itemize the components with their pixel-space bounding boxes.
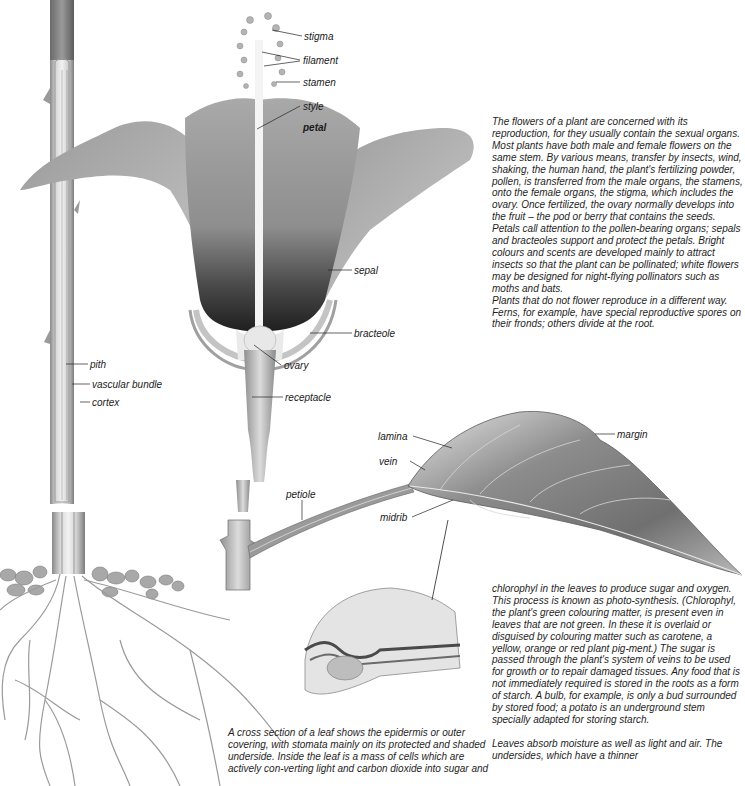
label-bracteole: bracteole [354,328,395,339]
label-petiole: petiole [286,489,315,500]
cross-section-caption: A cross section of a leaf shows the epid… [228,727,490,775]
chlorophyl-paragraph: chlorophyl in the leaves to produce suga… [492,583,744,726]
label-stamen: stamen [303,77,336,88]
leaf-cross-section-drawing [305,520,460,694]
label-vein: vein [379,456,397,467]
flowers-text-block: The flowers of a plant are concerned wit… [492,116,744,330]
label-vascular-bundle: vascular bundle [92,379,162,390]
label-sepal: sepal [354,265,378,276]
label-stigma: stigma [304,31,333,42]
leaf-drawing [408,411,742,575]
petiole-stem-drawing [220,480,414,590]
label-margin: margin [617,429,648,440]
label-filament: filament [303,55,338,66]
flower-drawing [20,13,474,483]
petals-paragraph: Petals call attention to the pollen-bear… [492,223,744,294]
label-pith: pith [90,359,106,370]
label-cortex: cortex [92,397,119,408]
cross-section-caption-text: A cross section of a leaf shows the epid… [228,727,490,775]
leaves-paragraph: Leaves absorb moisture as well as light … [492,738,744,762]
label-petal: petal [303,122,326,133]
photosynthesis-text-block: chlorophyl in the leaves to produce suga… [492,583,744,762]
stem-drawing [43,0,85,574]
flowers-paragraph: The flowers of a plant are concerned wit… [492,116,744,223]
label-lamina: lamina [378,431,407,442]
label-midrib: midrib [380,512,407,523]
label-receptacle: receptacle [285,392,331,403]
label-ovary: ovary [284,360,308,371]
nonflowering-paragraph: Plants that do not flower reproduce in a… [492,295,744,331]
label-style: style [303,101,324,112]
